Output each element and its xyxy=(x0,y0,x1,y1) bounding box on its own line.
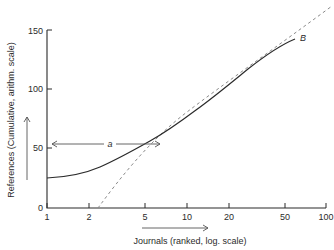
curve-end-label-b: B xyxy=(300,33,306,43)
chart-svg: 0 50 100 150 1 2 5 10 20 50 100 a B xyxy=(0,0,334,250)
x-axis-title: Journals (ranked, log. scale) xyxy=(133,236,246,246)
x-tick-label-1: 1 xyxy=(44,212,49,222)
x-tick-label-2: 2 xyxy=(86,212,91,222)
chart-figure: 0 50 100 150 1 2 5 10 20 50 100 a B xyxy=(0,0,334,250)
x-tick-label-10: 10 xyxy=(182,212,192,222)
span-a-label: a xyxy=(107,139,112,149)
y-tick-label-0: 0 xyxy=(38,203,43,213)
y-tick-label-50: 50 xyxy=(33,143,43,153)
x-tick-label-100: 100 xyxy=(318,212,333,222)
x-tick-label-20: 20 xyxy=(224,212,234,222)
y-tick-label-100: 100 xyxy=(28,84,43,94)
y-axis-title: References (Cumulative, arithm. scale) xyxy=(6,42,16,198)
y-tick-label-150: 150 xyxy=(28,26,43,36)
x-tick-label-50: 50 xyxy=(280,212,290,222)
x-tick-label-5: 5 xyxy=(142,212,147,222)
